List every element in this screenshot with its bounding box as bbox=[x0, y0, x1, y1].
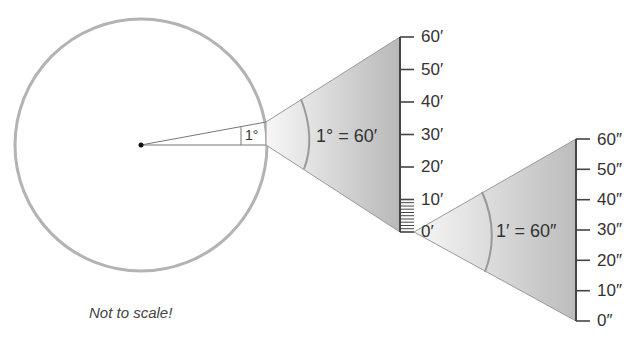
minute-tick-label: 10′ bbox=[421, 191, 443, 208]
minute-equation: 1′ = 60″ bbox=[496, 222, 556, 240]
second-tick-label: 0″ bbox=[597, 312, 612, 329]
degree-equation: 1° = 60′ bbox=[316, 127, 377, 145]
second-tick-label: 20″ bbox=[597, 252, 622, 269]
second-tick-label: 40″ bbox=[597, 191, 622, 208]
center-point bbox=[139, 143, 144, 148]
minute-fine-ticks bbox=[400, 203, 414, 229]
second-scale-ticks bbox=[576, 139, 590, 321]
angle-diagram bbox=[0, 0, 636, 342]
minute-tick-label: 50′ bbox=[421, 61, 443, 78]
minute-tick-label: 40′ bbox=[421, 93, 443, 110]
minute-tick-label: 30′ bbox=[421, 126, 443, 143]
minute-tick-label: 0′ bbox=[421, 223, 434, 240]
angle-label: 1° bbox=[245, 128, 258, 142]
not-to-scale-note: Not to scale! bbox=[89, 304, 172, 321]
second-tick-label: 30″ bbox=[597, 221, 622, 238]
minute-tick-label: 20′ bbox=[421, 158, 443, 175]
minute-tick-label: 60′ bbox=[421, 28, 443, 45]
second-tick-label: 60″ bbox=[597, 131, 622, 148]
second-tick-label: 10″ bbox=[597, 282, 622, 299]
second-tick-label: 50″ bbox=[597, 161, 622, 178]
